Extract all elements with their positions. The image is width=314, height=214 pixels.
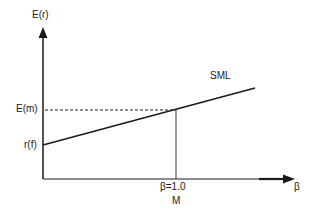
sml-line bbox=[43, 88, 255, 145]
market-point-label: M bbox=[172, 196, 180, 206]
y-axis-arrow-icon bbox=[39, 27, 48, 38]
market-beta-label: β=1.0 bbox=[160, 182, 186, 192]
y-axis-label: E(r) bbox=[32, 10, 49, 20]
x-axis-label: β bbox=[294, 182, 300, 192]
risk-free-label: r(f) bbox=[24, 140, 37, 150]
sml-diagram bbox=[0, 0, 314, 214]
market-return-label: E(m) bbox=[16, 104, 38, 114]
sml-label: SML bbox=[210, 71, 231, 81]
